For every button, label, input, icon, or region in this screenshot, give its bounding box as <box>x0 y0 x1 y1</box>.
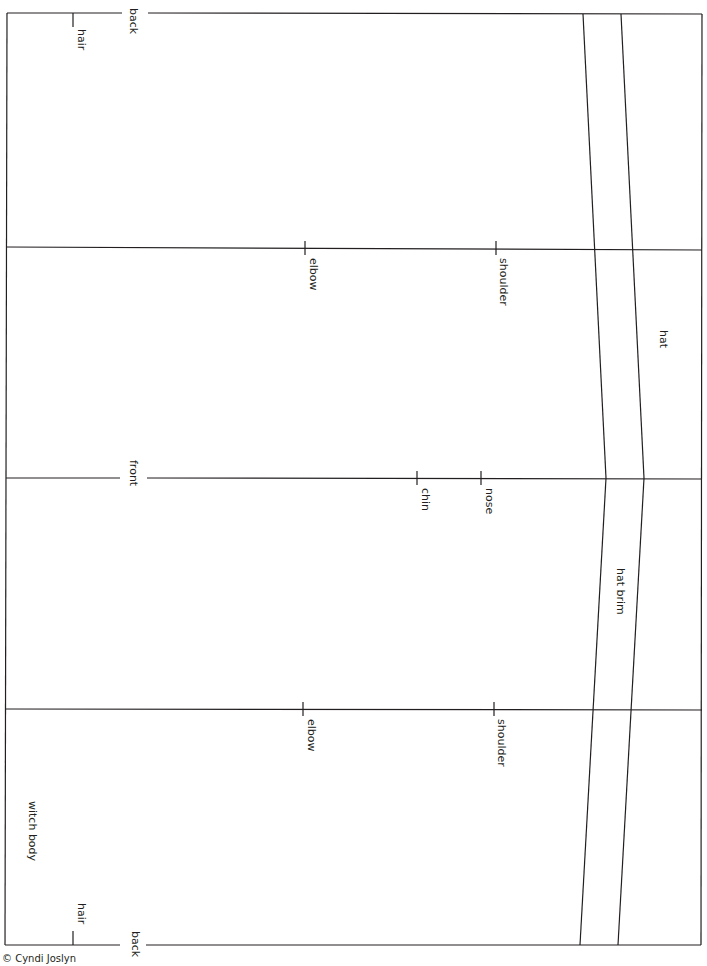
elbow-label-top: elbow <box>307 258 320 291</box>
fold-line-center-right <box>147 478 702 479</box>
hair-label-bottom: hair <box>75 903 88 925</box>
hat-brim-line-outer <box>618 478 644 945</box>
shoulder-label-bottom: shoulder <box>495 719 508 767</box>
hat-label: hat <box>657 330 670 349</box>
fold-line-lower <box>6 709 702 710</box>
elbow-label-bottom: elbow <box>305 719 318 752</box>
back-label-top: back <box>127 8 140 35</box>
hat-brim-line-inner <box>580 478 606 945</box>
hat-brim-label: hat brim <box>614 568 627 615</box>
hair-label-top: hair <box>75 29 88 51</box>
hat-line-outer-upper <box>621 14 644 478</box>
chin-label: chin <box>419 488 432 511</box>
fold-line-upper <box>6 247 702 250</box>
hat-line-inner-upper <box>583 14 606 478</box>
pattern-diagram: back hair elbow shoulder hat front chin … <box>0 0 707 966</box>
top-edge-line-right <box>148 13 702 14</box>
nose-label: nose <box>483 488 496 514</box>
back-label-bottom: back <box>129 931 142 958</box>
copyright-notice: © Cyndi Joslyn <box>2 953 76 964</box>
left-border-line <box>5 13 7 945</box>
front-label: front <box>127 460 140 487</box>
shoulder-label-top: shoulder <box>497 258 510 306</box>
witch-body-label: witch body <box>26 801 39 862</box>
